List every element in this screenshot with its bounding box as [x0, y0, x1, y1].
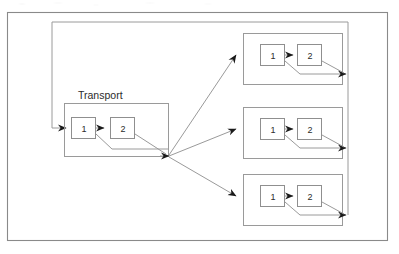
diagram-canvas: 1 2 Transport 1 2	[0, 0, 399, 254]
fanout-line-bottom	[169, 157, 236, 196]
group-branch-middle-boundary	[244, 108, 343, 159]
fanout-branch-lines	[169, 55, 236, 196]
branch-bottom-node-1-label: 1	[270, 192, 275, 202]
transport-node-2-label: 2	[120, 124, 125, 134]
branch-middle-node-2-label: 2	[307, 125, 312, 135]
group-branch-bottom[interactable]: 1 2	[244, 175, 347, 226]
branch-middle-node-1-label: 1	[270, 125, 275, 135]
group-branch-bottom-boundary	[244, 175, 343, 226]
group-transport[interactable]: 1 2 Transport	[65, 89, 169, 157]
block-diagram-figure: 1 2 Transport 1 2	[0, 0, 399, 254]
branch-middle-link-2-to-output	[322, 135, 344, 147]
branch-top-node-1-label: 1	[270, 51, 275, 61]
fanout-line-top	[169, 55, 236, 155]
group-branch-middle[interactable]: 1 2	[244, 108, 347, 159]
group-branch-top[interactable]: 1 2	[244, 34, 347, 85]
fanout-line-middle	[169, 129, 236, 156]
branch-top-link-2-to-output	[322, 61, 344, 73]
transport-node-1-label: 1	[81, 124, 86, 134]
branch-top-node-2-label: 2	[307, 51, 312, 61]
transport-link-2-to-junction	[135, 134, 166, 154]
feedback-loop-path	[52, 22, 348, 128]
branch-bottom-node-2-label: 2	[307, 192, 312, 202]
group-branch-top-boundary	[244, 34, 343, 85]
branch-bottom-link-2-to-output	[322, 202, 344, 214]
group-transport-title: Transport	[78, 89, 123, 101]
